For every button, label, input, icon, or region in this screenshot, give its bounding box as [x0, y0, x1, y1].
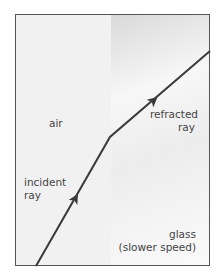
incident-label-line2: ray — [24, 189, 66, 202]
incident-label-line1: incident — [24, 176, 66, 189]
glass-label-line2: (slower speed) — [110, 241, 196, 254]
glass-label: glass (slower speed) — [110, 228, 196, 254]
incident-ray-label: incident ray — [24, 176, 66, 202]
incident-arrow-icon — [69, 191, 83, 205]
refracted-label-line2: ray — [150, 121, 195, 134]
refracted-label-line1: refracted — [150, 108, 195, 121]
glass-label-line1: glass — [110, 228, 196, 241]
refracted-ray-label: refracted ray — [150, 108, 195, 134]
air-label: air — [49, 117, 63, 130]
